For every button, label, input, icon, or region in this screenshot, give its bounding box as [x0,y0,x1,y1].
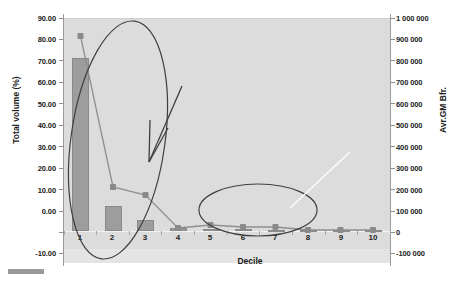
y-tick-right-400000: 400 000 [396,143,422,152]
y-tick-right-1000000: 1 000 000 [396,14,428,23]
y-tick-right-900000: 900 000 [396,35,422,44]
bar-decile-8 [300,230,317,232]
y-axis-right-line [390,14,391,266]
y-axis-left-title: Total volume (%) [11,55,21,165]
y-tick-right-700000: 700 000 [396,78,422,87]
bar-decile-5 [203,229,220,231]
corner-mark [8,269,44,274]
y-tick-right-neg100000: -100 000 [396,249,425,258]
x-tick-6: 6 [233,233,253,242]
y-tick-right-500000: 500 000 [396,121,422,130]
plot-top-border [64,18,390,19]
x-tick-4: 4 [168,233,188,242]
bar-decile-3 [137,220,154,231]
bar-decile-10 [365,230,382,232]
y-tick-right-0: 0 [396,228,400,237]
bar-decile-9 [333,230,350,232]
x-tick-5: 5 [200,233,220,242]
bar-decile-4 [170,228,187,231]
bar-decile-7 [268,230,285,232]
y-tick-right-300000: 300 000 [396,164,422,173]
x-tick-7: 7 [265,233,285,242]
y-tick-left-90: 90.00 [4,14,56,23]
x-axis-title: Decile [205,256,295,266]
x-tick-3: 3 [135,233,155,242]
x-tick-1: 1 [70,233,90,242]
y-axis-left-line [63,14,64,266]
bar-decile-6 [235,229,252,231]
x-tick-8: 8 [298,233,318,242]
y-tick-right-100000: 100 000 [396,207,422,216]
plot-area [64,18,390,231]
x-tick-10: 10 [363,233,383,242]
bar-decile-2 [105,206,122,231]
y-tick-right-800000: 800 000 [396,57,422,66]
y-tick-left-80: 80.00 [4,35,56,44]
y-axis-right-title: Avr.GM Bfr. [438,55,448,165]
y-tick-left-neg10: -10.00 [4,249,56,258]
y-tick-left-20: 20.00 [4,164,56,173]
x-tick-2: 2 [102,233,122,242]
y-tick-right-200000: 200 000 [396,186,422,195]
x-tick-9: 9 [331,233,351,242]
y-tick-right-600000: 600 000 [396,100,422,109]
chart-figure: 90.00 80.00 70.00 60.00 50.00 40.00 30.0… [0,0,453,281]
y-tick-left-10: 10.00 [4,186,56,195]
bar-decile-1 [72,58,89,231]
y-tick-left-0: 0.00 [4,207,56,216]
